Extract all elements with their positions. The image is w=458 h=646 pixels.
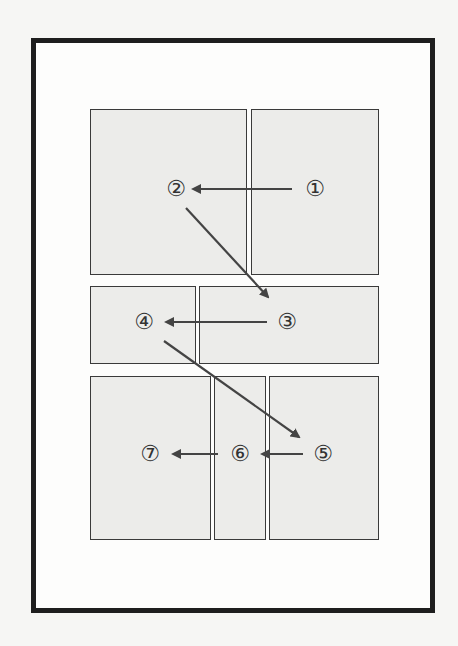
- label-2: ②: [165, 178, 187, 200]
- label-7: ⑦: [139, 443, 161, 465]
- label-4: ④: [133, 311, 155, 333]
- label-6: ⑥: [229, 443, 251, 465]
- reading-order-arrows: [0, 0, 458, 646]
- label-3: ③: [276, 311, 298, 333]
- label-1: ①: [304, 178, 326, 200]
- arrow-4-to-5: [164, 341, 299, 437]
- arrow-2-to-3: [186, 208, 268, 297]
- label-5: ⑤: [312, 443, 334, 465]
